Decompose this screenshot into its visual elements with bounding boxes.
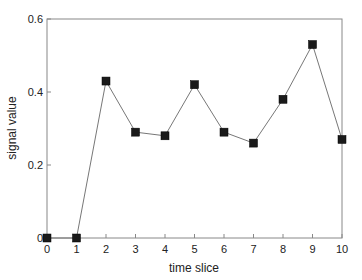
plot-border	[47, 19, 342, 238]
x-tick-label: 5	[191, 243, 197, 255]
x-tick-label: 7	[250, 243, 256, 255]
x-tick-label: 3	[132, 243, 138, 255]
data-point-marker	[250, 139, 258, 147]
series-markers	[43, 41, 346, 242]
x-tick-label: 4	[162, 243, 168, 255]
x-tick-label: 0	[44, 243, 50, 255]
data-point-marker	[73, 234, 81, 242]
data-point-marker	[191, 81, 199, 89]
x-tick-label: 1	[73, 243, 79, 255]
data-point-marker	[161, 132, 169, 140]
data-point-marker	[220, 128, 228, 136]
data-point-marker	[43, 234, 51, 242]
x-tick-label: 10	[336, 243, 348, 255]
y-tick-label: 0.6	[28, 13, 43, 25]
x-axis-ticks: 012345678910	[44, 234, 348, 255]
y-axis-ticks: 00.20.40.6	[28, 13, 51, 244]
data-point-marker	[132, 128, 140, 136]
line-chart: 012345678910 00.20.40.6 time slice signa…	[0, 0, 362, 280]
plot-frame	[47, 19, 342, 238]
y-tick-label: 0.4	[28, 86, 43, 98]
x-tick-label: 6	[221, 243, 227, 255]
data-point-marker	[309, 41, 317, 49]
data-point-marker	[338, 135, 346, 143]
x-tick-label: 9	[309, 243, 315, 255]
x-tick-label: 2	[103, 243, 109, 255]
data-point-marker	[279, 95, 287, 103]
y-tick-label: 0.2	[28, 159, 43, 171]
x-axis-label: time slice	[169, 261, 219, 275]
y-tick-label: 0	[37, 232, 43, 244]
series-polyline	[47, 45, 342, 238]
data-point-marker	[102, 77, 110, 85]
series-line	[47, 45, 342, 238]
y-axis-label: signal value	[5, 96, 19, 160]
x-tick-label: 8	[280, 243, 286, 255]
